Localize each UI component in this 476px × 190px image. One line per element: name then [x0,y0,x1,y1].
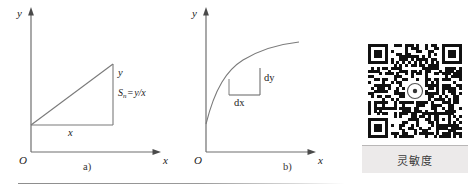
y-axis-label-b: y [192,8,197,19]
formula-expression: y/x [134,87,146,98]
qr-block: 灵敏度 [360,40,470,180]
x-axis-arrow-b [308,149,317,155]
linear-characteristic-line [31,64,113,125]
x-axis-label-a: x [163,155,168,166]
figure-root: y x O y x Sn=y/x a) y x O dy dx [0,0,476,190]
vertical-side-label-a: y [118,68,123,79]
dy-label: dy [264,73,275,84]
formula-operator: = [127,87,135,98]
panel-b: y x O dy dx b) [175,0,350,190]
sensitivity-formula: Sn=y/x [118,88,146,100]
dx-label: dx [234,98,245,109]
y-axis-arrow-a [28,7,34,16]
horizontal-side-label-a: x [68,128,73,139]
y-axis-arrow-b [203,7,209,16]
bottom-divider [18,183,345,184]
x-axis-arrow-a [153,149,162,155]
panel-a: y x O y x Sn=y/x a) [0,0,175,190]
qr-caption-label: 灵敏度 [397,152,433,168]
qr-code-image[interactable] [368,44,462,138]
origin-label-b: O [194,155,202,166]
x-axis-label-b: x [318,155,323,166]
nonlinear-characteristic-curve [206,42,299,124]
origin-label-a: O [19,155,27,166]
caption-b: b) [283,162,292,173]
formula-subscript: n [123,92,127,100]
qr-caption-box: 灵敏度 [362,145,468,173]
y-axis-label-a: y [17,8,22,19]
caption-a: a) [83,162,91,173]
